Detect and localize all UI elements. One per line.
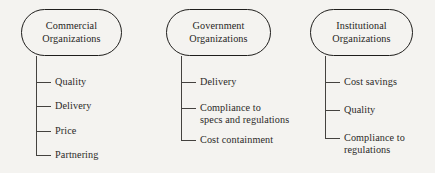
group-institutional: Institutional Organizations Cost savings… bbox=[290, 0, 435, 173]
leaf-text-line-1: Compliance to bbox=[200, 102, 261, 113]
leaf-label-commercial-2: Delivery bbox=[55, 100, 91, 112]
group-commercial: Commercial Organizations Quality Deliver… bbox=[0, 0, 145, 173]
node-title-line-1: Commercial bbox=[46, 20, 97, 32]
branch-stub-commercial-2 bbox=[36, 106, 51, 107]
leaf-label-institutional-3: Compliance to regulations bbox=[344, 132, 405, 156]
leaf-text-line-2: regulations bbox=[344, 144, 405, 156]
leaf-label-commercial-3: Price bbox=[55, 125, 76, 137]
leaf-text-line-1: Compliance to bbox=[344, 132, 405, 143]
node-box-government[interactable]: Government Organizations bbox=[166, 9, 271, 56]
leaf-text-line-1: Partnering bbox=[55, 149, 98, 160]
branch-stub-commercial-3 bbox=[36, 131, 51, 132]
branch-stub-institutional-3 bbox=[325, 138, 340, 139]
leaf-label-government-1: Delivery bbox=[200, 76, 236, 88]
group-government: Government Organizations Delivery Compli… bbox=[145, 0, 290, 173]
leaf-text-line-1: Delivery bbox=[200, 76, 236, 87]
leaf-label-commercial-4: Partnering bbox=[55, 149, 98, 161]
leaf-text-line-1: Price bbox=[55, 125, 76, 136]
leaf-label-institutional-2: Quality bbox=[344, 104, 375, 116]
leaf-text-line-1: Quality bbox=[344, 104, 375, 115]
organization-requirements-diagram: Commercial Organizations Quality Deliver… bbox=[0, 0, 435, 173]
leaf-text-line-1: Quality bbox=[55, 76, 86, 87]
node-box-commercial[interactable]: Commercial Organizations bbox=[21, 9, 122, 56]
leaf-label-institutional-1: Cost savings bbox=[344, 76, 397, 88]
trunk-line-institutional bbox=[325, 56, 326, 139]
branch-stub-government-3 bbox=[181, 140, 196, 141]
branch-stub-government-1 bbox=[181, 82, 196, 83]
branch-stub-institutional-1 bbox=[325, 82, 340, 83]
node-title-line-2: Organizations bbox=[42, 33, 100, 45]
branch-stub-government-2 bbox=[181, 108, 196, 109]
leaf-label-government-3: Cost containment bbox=[200, 134, 273, 146]
branch-stub-commercial-4 bbox=[36, 155, 51, 156]
node-title-line-1: Institutional bbox=[336, 20, 387, 32]
node-title-line-2: Organizations bbox=[332, 33, 390, 45]
node-box-institutional[interactable]: Institutional Organizations bbox=[310, 9, 413, 56]
branch-stub-institutional-2 bbox=[325, 110, 340, 111]
node-title-line-2: Organizations bbox=[189, 33, 247, 45]
node-title-line-1: Government bbox=[193, 20, 245, 32]
leaf-label-government-2: Compliance to specs and regulations bbox=[200, 102, 289, 126]
leaf-text-line-1: Cost containment bbox=[200, 134, 273, 145]
leaf-text-line-1: Delivery bbox=[55, 100, 91, 111]
leaf-text-line-2: specs and regulations bbox=[200, 114, 289, 126]
leaf-text-line-1: Cost savings bbox=[344, 76, 397, 87]
trunk-line-government bbox=[181, 56, 182, 141]
branch-stub-commercial-1 bbox=[36, 82, 51, 83]
leaf-label-commercial-1: Quality bbox=[55, 76, 86, 88]
